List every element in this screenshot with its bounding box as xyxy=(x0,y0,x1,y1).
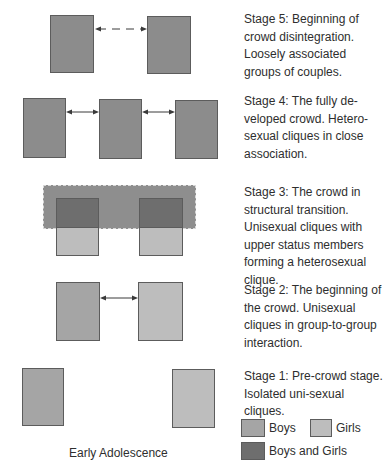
stage-3-clique-right-upper xyxy=(139,198,183,228)
diagram-title: Early Adolescence xyxy=(69,446,168,460)
stage-5-caption: Stage 5: Beginning of crowd disintegrati… xyxy=(244,11,383,81)
stage-5-couple-group-left xyxy=(50,15,94,73)
double-arrow-icon xyxy=(66,107,99,117)
double-arrow-icon xyxy=(142,107,175,117)
stage-4-clique-3 xyxy=(175,100,218,159)
stage-3-clique-left-upper xyxy=(56,198,99,228)
stage-3-clique-left-lower xyxy=(56,226,99,256)
dashed-double-arrow-icon xyxy=(95,24,147,34)
legend-label-boys: Boys xyxy=(269,420,296,436)
stage-1-boys-clique xyxy=(22,368,64,426)
stage-5-couple-group-right xyxy=(147,16,191,74)
stage-4-caption: Stage 4: The fully de-veloped crowd. Het… xyxy=(244,93,383,163)
legend-label-girls: Girls xyxy=(336,420,361,436)
stage-3-caption: Stage 3: The crowd in structural transit… xyxy=(244,184,383,289)
legend-swatch-girls xyxy=(310,419,332,437)
legend-swatch-boys xyxy=(241,419,265,437)
stage-4-clique-2 xyxy=(99,99,142,159)
stage-3-clique-right-lower xyxy=(139,226,183,256)
stage-1-caption: Stage 1: Pre-crowd stage. Isolated uni-s… xyxy=(244,368,383,421)
stage-2-girls-clique xyxy=(138,282,183,341)
legend-label-boys-and-girls: Boys and Girls xyxy=(269,443,347,459)
legend-swatch-boys-and-girls xyxy=(241,442,265,460)
stage-2-boys-clique xyxy=(56,282,100,341)
stage-2-caption: Stage 2: The beginning of the crowd. Uni… xyxy=(244,282,383,352)
stage-4-clique-1 xyxy=(23,98,66,158)
double-arrow-icon xyxy=(100,293,138,303)
stage-1-girls-clique xyxy=(172,369,215,428)
